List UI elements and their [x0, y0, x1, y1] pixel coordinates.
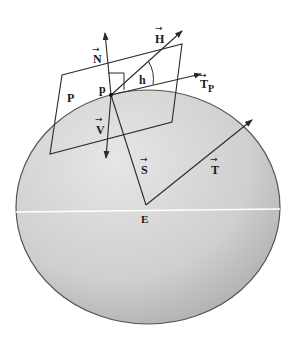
svg-text:V: V — [96, 123, 105, 137]
point-p-dot — [109, 93, 113, 97]
svg-text:P: P — [208, 83, 214, 94]
label-plane-P: P — [67, 91, 74, 105]
diagram-canvas: → N → H h → T P P p → V → S → T E — [0, 0, 298, 342]
svg-text:N: N — [93, 52, 102, 66]
label-h: h — [139, 73, 146, 87]
svg-text:H: H — [155, 32, 165, 46]
label-S: → S — [140, 154, 148, 177]
label-Tp: → T P — [199, 70, 214, 94]
label-N: → N — [92, 44, 102, 66]
earth-sphere — [16, 90, 280, 324]
label-H: → H — [155, 23, 165, 46]
label-point-p: p — [99, 82, 106, 96]
angle-arc-h — [149, 62, 154, 85]
label-E: E — [141, 213, 148, 225]
svg-text:T: T — [200, 77, 208, 91]
vector-H — [111, 31, 182, 95]
svg-text:T: T — [211, 163, 219, 177]
svg-text:S: S — [141, 163, 148, 177]
